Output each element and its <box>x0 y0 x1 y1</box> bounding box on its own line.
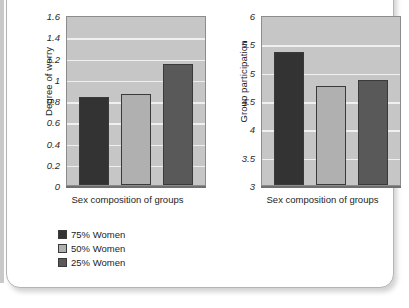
y-tick-label: 0.2 <box>47 159 60 170</box>
y-tick-label: 4 <box>250 124 255 135</box>
chart-degree-of-worry: Degree of worry 1.61.41.210.80.60.40.20 … <box>20 8 215 220</box>
charts-row: Degree of worry 1.61.41.210.80.60.40.20 … <box>12 8 409 220</box>
y-tick-label: 5.5 <box>242 39 255 50</box>
y-tick-label: 4.5 <box>242 96 255 107</box>
y-tick-label: 1.2 <box>47 53 60 64</box>
x-axis-line <box>66 186 206 188</box>
legend-label: 25% Women <box>71 257 125 268</box>
legend-swatch-icon <box>58 244 67 253</box>
plot-area <box>261 16 401 186</box>
page-left-rule <box>0 0 4 283</box>
y-axis-tick-labels: 65.554.543.53 <box>227 16 257 186</box>
bar <box>358 80 388 185</box>
y-tick-label: 5 <box>250 67 255 78</box>
bar <box>79 97 109 185</box>
y-tick-label: 0 <box>55 181 60 192</box>
y-tick-label: 0.4 <box>47 138 60 149</box>
legend-swatch-icon <box>58 230 67 239</box>
legend: 75% Women50% Women25% Women <box>58 227 208 269</box>
legend-item: 50% Women <box>58 241 208 255</box>
y-tick-label: 3.5 <box>242 152 255 163</box>
x-axis-title: Sex composition of groups <box>40 194 215 205</box>
y-tick-label: 1 <box>55 74 60 85</box>
legend-item: 25% Women <box>58 255 208 269</box>
y-tick-label: 3 <box>250 181 255 192</box>
bar-series <box>67 17 205 185</box>
y-axis-tick-labels: 1.61.41.210.80.60.40.20 <box>32 16 62 186</box>
bar <box>121 94 151 185</box>
chart-group-participation: Group participation 65.554.543.53 Sex co… <box>215 8 409 220</box>
legend-swatch-icon <box>58 258 67 267</box>
x-axis-title: Sex composition of groups <box>235 194 409 205</box>
y-tick-label: 1.4 <box>47 32 60 43</box>
legend-label: 50% Women <box>71 243 125 254</box>
plot-area <box>66 16 206 186</box>
legend-label: 75% Women <box>71 229 125 240</box>
bar-series <box>262 17 400 185</box>
y-tick-label: 1.6 <box>47 11 60 22</box>
bar <box>163 64 193 185</box>
y-tick-label: 0.6 <box>47 117 60 128</box>
y-tick-label: 0.8 <box>47 96 60 107</box>
x-axis-line <box>261 186 401 188</box>
y-tick-label: 6 <box>250 11 255 22</box>
bar <box>274 52 304 185</box>
legend-item: 75% Women <box>58 227 208 241</box>
bar <box>316 86 346 185</box>
